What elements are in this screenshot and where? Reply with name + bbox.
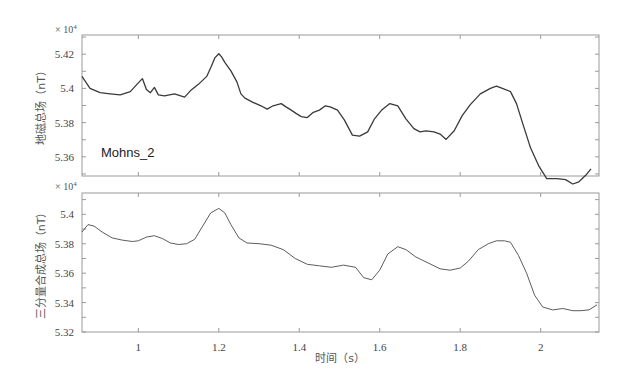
x-axis-title: 时间（s） <box>315 352 365 365</box>
y-tick-label: 5.38 <box>55 238 75 250</box>
bottom-series-line <box>82 208 597 310</box>
y-tick-label: 5.36 <box>55 151 75 163</box>
top-y-axis-title: 地磁总场（nT） <box>34 65 48 145</box>
top-panel: 5.365.385.45.42 × 104 Mohns_2 地磁总场（nT） <box>34 23 599 184</box>
bottom-y-axis-title: 三分量合成总场（nT） <box>34 207 48 320</box>
top-series-line <box>82 54 591 184</box>
bottom-multiplier: × 104 <box>55 180 77 192</box>
y-tick-label: 5.4 <box>60 208 74 220</box>
y-tick-label: 5.32 <box>55 326 74 338</box>
x-tick-label: 1.8 <box>453 341 467 353</box>
annotation-label: Mohns_2 <box>101 145 154 160</box>
y-tick-label: 5.4 <box>60 82 74 94</box>
y-tick-label: 5.42 <box>55 48 74 60</box>
bottom-ticks: 11.21.41.61.825.325.345.365.385.4 <box>55 193 599 353</box>
y-tick-label: 5.36 <box>55 267 75 279</box>
x-tick-label: 1 <box>136 341 142 353</box>
x-tick-label: 1.6 <box>373 341 387 353</box>
bottom-panel: 11.21.41.61.825.325.345.365.385.4 × 104 … <box>34 180 599 365</box>
y-tick-label: 5.34 <box>55 297 75 309</box>
x-tick-label: 1.4 <box>292 341 306 353</box>
top-plot-frame <box>82 35 599 176</box>
y-tick-label: 5.38 <box>55 117 75 129</box>
top-multiplier: × 104 <box>55 23 77 35</box>
dual-line-chart: 5.365.385.45.42 × 104 Mohns_2 地磁总场（nT） 1… <box>0 0 636 385</box>
x-tick-label: 1.2 <box>212 341 226 353</box>
x-tick-label: 2 <box>538 341 544 353</box>
